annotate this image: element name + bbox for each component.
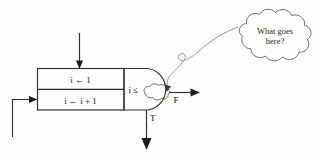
loop-back-arrow-icon: [13, 96, 38, 137]
true-branch-label: T: [150, 113, 156, 123]
flowchart-diagram: i ← 1 i ← i + 1 i ≤ F T: [0, 0, 321, 157]
process-row-increment-label: i ← i + 1: [64, 96, 97, 106]
decision-condition-label: i ≤: [129, 85, 139, 95]
annotation-line-2: here?: [266, 36, 285, 46]
entry-arrow-icon: [76, 33, 83, 69]
figure-canvas: i ← 1 i ← i + 1 i ≤ F T: [0, 0, 321, 157]
process-row-init-label: i ← 1: [70, 75, 91, 85]
annotation-line-1: What goes: [257, 26, 293, 36]
false-branch-label: F: [174, 95, 179, 105]
curly-pointer-icon: [164, 27, 238, 92]
